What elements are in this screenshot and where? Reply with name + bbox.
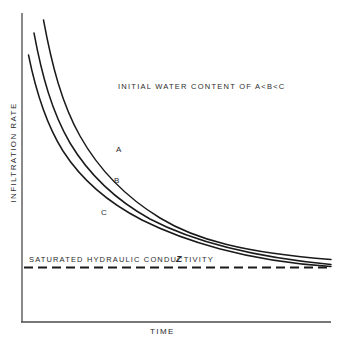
y-axis-label: INFILTRATION RATE (9, 93, 18, 213)
annotation-saturated-hydraulic-conductivity: SATURATED HYDRAULIC CONDUCTIVITY (29, 255, 214, 264)
curve-label-b: B (114, 176, 119, 185)
annotation-initial-water-content: INITIAL WATER CONTENT OF A<B<C (118, 82, 286, 91)
curve-label-c: C (101, 208, 107, 217)
plot-area (0, 0, 347, 340)
x-axis-label: TIME (150, 327, 175, 336)
curve-a (44, 20, 332, 260)
infiltration-rate-figure: INFILTRATION RATE TIME INITIAL WATER CON… (0, 0, 347, 340)
curve-label-a: A (116, 145, 121, 154)
ksat-pointer-glyph: Z (176, 254, 183, 264)
